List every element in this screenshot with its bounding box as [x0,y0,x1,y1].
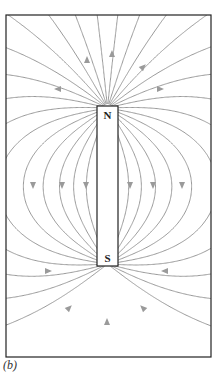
south-pole-label: S [104,252,110,264]
arrow-icon [45,268,52,274]
arrow-icon [84,56,90,63]
field-line [110,109,216,264]
field-line [0,97,104,277]
field-line [0,0,106,105]
arrow-icon [157,86,164,92]
field-line [0,109,105,264]
arrow-icon [139,62,148,71]
field-line [0,108,104,266]
arrow-icon [109,50,115,57]
bar-magnet-field-diagram: N S [0,0,217,375]
arrow-icon [161,268,168,274]
arrow-icon [65,303,74,312]
figure-caption: (b) [3,358,17,373]
north-pole-label: N [104,109,112,121]
bar-magnet [97,106,118,266]
arrow-icon [30,182,36,189]
arrow-icon [127,182,133,189]
arrow-icon [179,182,185,189]
field-line [111,97,217,277]
arrow-icon [104,318,110,325]
arrow-icon [83,182,89,189]
field-line [111,108,217,266]
arrow-icon [138,303,147,312]
